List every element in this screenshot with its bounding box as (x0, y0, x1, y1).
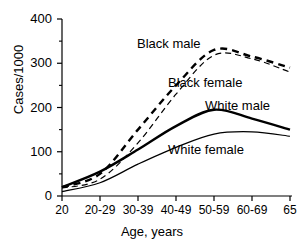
series-label-white-female: White female (168, 142, 244, 157)
y-tick-label: 0 (8, 188, 52, 203)
series-label-white-male: White male (205, 98, 270, 113)
x-axis-ticks (62, 196, 290, 201)
y-tick-label: 200 (8, 100, 52, 115)
y-tick-label: 100 (8, 144, 52, 159)
series-line-black-male (62, 49, 290, 188)
series-label-black-female: Black female (168, 75, 242, 90)
y-tick-label: 300 (8, 55, 52, 70)
x-tick-label: 65 (262, 203, 304, 217)
chart-container: Cases/1000 Age, years 0100200300400 2020… (0, 0, 304, 252)
y-axis-title: Cases/1000 (11, 25, 26, 135)
series-label-black-male: Black male (137, 36, 201, 51)
chart-series-lines (62, 49, 290, 192)
y-axis-ticks (57, 19, 62, 196)
y-tick-label: 400 (8, 11, 52, 26)
series-line-white-female (62, 132, 290, 192)
x-axis-title: Age, years (0, 224, 304, 239)
